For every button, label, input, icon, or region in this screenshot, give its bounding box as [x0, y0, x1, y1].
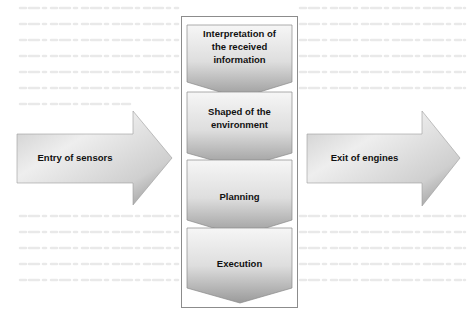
step-label-4: Execution: [187, 257, 292, 270]
step-label-2: Shaped of the environment: [187, 105, 292, 131]
step-label-3: Planning: [187, 190, 292, 203]
step-label-1: Interpretation of the received informati…: [187, 27, 292, 66]
input-arrow-label: Entry of sensors: [17, 151, 133, 164]
output-arrow-label: Exit of engines: [307, 151, 422, 164]
